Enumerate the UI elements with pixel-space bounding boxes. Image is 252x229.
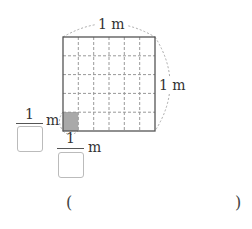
answer-open-paren: ( — [66, 195, 72, 211]
right-dimension-label: 1 m — [158, 78, 187, 92]
bottom-fraction-bar — [57, 148, 84, 149]
left-fraction-bar — [16, 123, 43, 124]
left-fraction-unit: m — [46, 113, 59, 127]
shaded-cell — [63, 112, 78, 131]
left-fraction-numerator: 1 — [25, 107, 34, 121]
bottom-fraction-numerator: 1 — [66, 131, 75, 145]
bottom-fraction-unit: m — [88, 140, 101, 154]
top-dimension-label: 1 m — [96, 17, 127, 31]
answer-blank[interactable] — [78, 193, 228, 213]
bottom-fraction-denominator-input[interactable] — [58, 152, 84, 178]
answer-close-paren: ) — [235, 195, 241, 211]
left-fraction-denominator-input[interactable] — [17, 126, 43, 152]
